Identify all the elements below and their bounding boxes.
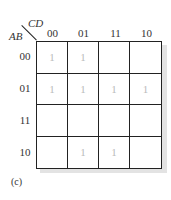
row-header-00: 00 [16, 50, 34, 62]
cell-00-01: 1 [68, 42, 99, 74]
figure-caption: (c) [11, 176, 22, 187]
cell-01-00: 1 [37, 74, 68, 106]
col-header-11: 11 [100, 27, 131, 39]
cell-00-11 [99, 42, 130, 74]
cell-11-01 [68, 105, 99, 137]
cell-10-11: 1 [99, 137, 130, 169]
cell-01-01: 1 [68, 74, 99, 106]
cell-11-10 [130, 105, 161, 137]
col-header-00: 00 [37, 27, 68, 39]
cell-00-00: 1 [37, 42, 68, 74]
cell-10-10 [130, 137, 161, 169]
cell-11-00 [37, 105, 68, 137]
cell-10-00 [37, 137, 68, 169]
col-header-01: 01 [68, 27, 99, 39]
cell-10-01: 1 [68, 137, 99, 169]
row-variable-label: AB [9, 30, 22, 42]
cell-11-11 [99, 105, 130, 137]
row-header-10: 10 [16, 146, 34, 158]
karnaugh-map-grid: 1 1 1 1 1 1 1 1 [36, 41, 162, 169]
row-header-01: 01 [16, 82, 34, 94]
col-header-10: 10 [131, 27, 162, 39]
row-header-11: 11 [16, 114, 34, 126]
cell-00-10 [130, 42, 161, 74]
cell-01-10: 1 [130, 74, 161, 106]
cell-01-11: 1 [99, 74, 130, 106]
